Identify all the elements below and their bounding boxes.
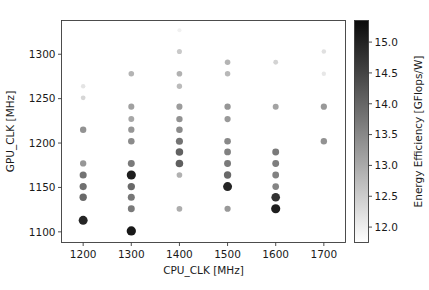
x-tick-label-1300: 1300 <box>118 248 145 260</box>
data-point <box>176 148 184 156</box>
data-point <box>322 49 327 54</box>
y-axis: 11001150120012501300GPU_CLK [MHz] <box>4 48 62 238</box>
data-point <box>127 226 136 235</box>
axes-spines <box>62 21 346 243</box>
data-point <box>321 104 327 110</box>
data-point <box>128 127 134 133</box>
data-point <box>128 183 135 190</box>
data-point <box>128 205 135 212</box>
data-point <box>79 194 86 201</box>
data-point <box>176 104 182 110</box>
data-point <box>176 126 183 133</box>
x-axis-label: CPU_CLK [MHz] <box>163 264 244 277</box>
data-point <box>273 104 279 110</box>
data-point <box>128 116 134 122</box>
x-axis: 120013001400150016001700CPU_CLK [MHz] <box>70 243 337 277</box>
x-tick-label-1700: 1700 <box>310 248 337 260</box>
scatter-chart-figure: 120013001400150016001700CPU_CLK [MHz]110… <box>0 0 429 290</box>
data-point <box>224 138 231 145</box>
data-point <box>128 160 135 167</box>
x-tick-label-1400: 1400 <box>166 248 193 260</box>
data-point <box>177 49 182 54</box>
y-tick-label-1150: 1150 <box>29 181 56 193</box>
colorbar-tick-label-12.5: 12.5 <box>375 190 398 202</box>
data-point <box>224 160 231 167</box>
data-point <box>322 72 326 76</box>
data-point <box>223 182 232 191</box>
data-point <box>128 194 135 201</box>
chart-canvas: 120013001400150016001700CPU_CLK [MHz]110… <box>0 0 429 290</box>
data-point <box>80 160 86 166</box>
x-tick-label-1500: 1500 <box>214 248 241 260</box>
data-point <box>128 104 134 110</box>
colorbar-tick-label-15: 15.0 <box>375 36 398 48</box>
y-tick-label-1200: 1200 <box>29 137 56 149</box>
data-point <box>224 103 230 109</box>
colorbar-tick-label-14.5: 14.5 <box>375 67 398 79</box>
data-point <box>80 127 86 133</box>
data-point <box>271 193 280 202</box>
data-point <box>224 116 230 122</box>
y-tick-label-1250: 1250 <box>29 92 56 104</box>
data-point <box>177 71 183 77</box>
data-point <box>177 206 183 212</box>
data-point <box>272 160 279 167</box>
data-point <box>272 148 279 155</box>
x-tick-label-1600: 1600 <box>262 248 289 260</box>
data-point <box>128 138 135 145</box>
data-point <box>177 84 182 89</box>
data-point <box>225 59 231 65</box>
data-point <box>176 160 184 168</box>
data-point <box>177 172 183 178</box>
data-point <box>321 138 327 144</box>
data-point <box>80 171 87 178</box>
data-point <box>271 204 280 213</box>
colorbar-gradient <box>355 21 369 243</box>
data-point <box>79 216 88 225</box>
x-tick-label-1200: 1200 <box>70 248 97 260</box>
data-point <box>273 60 278 65</box>
data-point <box>127 170 136 179</box>
data-point <box>272 172 279 179</box>
plot-frame <box>62 21 346 243</box>
data-point <box>80 183 87 190</box>
data-point <box>224 171 231 178</box>
y-tick-label-1100: 1100 <box>29 226 56 238</box>
data-point <box>224 206 230 212</box>
colorbar-tick-label-13: 13.0 <box>375 159 398 171</box>
y-tick-label-1300: 1300 <box>29 48 56 60</box>
colorbar-tick-label-13.5: 13.5 <box>375 128 398 140</box>
data-point <box>129 71 135 77</box>
data-point <box>177 28 181 32</box>
data-point <box>272 183 279 190</box>
colorbar-tick-label-12: 12.0 <box>375 221 398 233</box>
data-point <box>81 84 85 88</box>
data-point <box>224 149 231 156</box>
y-axis-label: GPU_CLK [MHz] <box>4 91 17 172</box>
data-point <box>176 138 183 145</box>
colorbar: 12.012.513.013.514.014.515.0Energy Effic… <box>355 21 425 243</box>
colorbar-tick-label-14: 14.0 <box>375 98 398 110</box>
data-point <box>176 116 182 122</box>
colorbar-label: Energy Efficiency [GFlops/W] <box>412 56 424 208</box>
data-point <box>81 95 86 100</box>
data-point <box>225 71 231 77</box>
